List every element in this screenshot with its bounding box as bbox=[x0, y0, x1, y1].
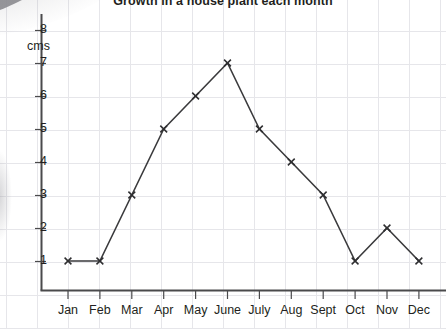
data-point-markers bbox=[65, 60, 423, 265]
data-point-marker bbox=[320, 192, 327, 199]
y-axis-tick-label: 8 bbox=[17, 22, 47, 36]
y-axis-tick-label: 2 bbox=[17, 220, 47, 234]
x-axis-tick-label: Oct bbox=[345, 303, 364, 317]
data-point-marker bbox=[384, 225, 391, 232]
line-chart-plot bbox=[0, 0, 446, 329]
y-axis-tick-label: 6 bbox=[17, 88, 47, 102]
data-line bbox=[68, 63, 419, 261]
data-point-marker bbox=[128, 192, 135, 199]
x-axis-tick-label: Dec bbox=[408, 303, 430, 317]
x-axis-tick-label: Nov bbox=[376, 303, 398, 317]
y-axis-tick-label: 4 bbox=[17, 154, 47, 168]
x-axis-tick-label: June bbox=[214, 303, 241, 317]
data-point-marker bbox=[224, 60, 231, 67]
y-axis-unit-label: cms bbox=[10, 39, 50, 53]
chart-screenshot: Growth in a house plant each month 12345… bbox=[0, 0, 446, 329]
data-point-marker bbox=[192, 93, 199, 100]
x-axis-tick-label: July bbox=[248, 303, 270, 317]
y-axis-tick-label: 1 bbox=[17, 253, 47, 267]
y-axis-tick-label: 5 bbox=[17, 121, 47, 135]
x-axis-tick-label: Sept bbox=[310, 303, 336, 317]
x-axis-tick-label: Aug bbox=[280, 303, 302, 317]
data-point-marker bbox=[160, 126, 167, 133]
data-point-marker bbox=[256, 126, 263, 133]
chart-axes bbox=[41, 14, 446, 291]
x-axis-tick-label: May bbox=[184, 303, 208, 317]
y-axis-tick-label: 3 bbox=[17, 187, 47, 201]
data-point-marker bbox=[352, 258, 359, 265]
data-point-marker bbox=[288, 159, 295, 166]
x-axis-tick-label: Jan bbox=[58, 303, 78, 317]
data-point-marker bbox=[416, 258, 423, 265]
x-axis-tick-label: Feb bbox=[89, 303, 111, 317]
y-axis-tick-label: 7 bbox=[17, 55, 47, 69]
x-axis-tick-label: Mar bbox=[121, 303, 143, 317]
x-axis-tick-label: Apr bbox=[154, 303, 173, 317]
